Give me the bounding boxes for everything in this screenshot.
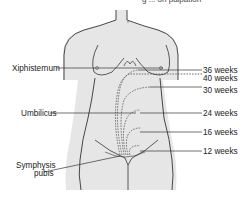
label-16-weeks: 16 weeks bbox=[203, 128, 238, 137]
label-pubis: pubis bbox=[34, 169, 54, 178]
label-30-weeks: 30 weeks bbox=[203, 86, 238, 95]
label-40-weeks: 40 weeks bbox=[203, 74, 238, 83]
label-umbilicus: Umbilicus bbox=[21, 109, 57, 118]
torso-silhouette bbox=[63, 10, 178, 190]
label-24-weeks: 24 weeks bbox=[203, 109, 238, 118]
suprasternal-mark bbox=[127, 21, 129, 23]
label-xiphisternum: Xiphisternum bbox=[12, 64, 60, 73]
label-12-weeks: 12 weeks bbox=[203, 147, 238, 156]
